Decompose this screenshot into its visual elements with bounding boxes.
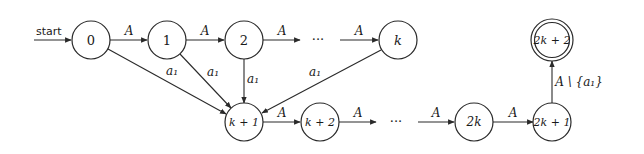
state-1: 1 [148, 21, 186, 59]
edge-dots-k: A [340, 24, 378, 40]
edge-k1-k2: A [263, 106, 300, 122]
edge-label: A [354, 24, 364, 38]
edge-2k1-2k2: A \ {a₁} [552, 61, 603, 103]
edge-dots-2k: A [418, 106, 454, 122]
ellipsis-top: ··· [312, 32, 324, 47]
edge-label: A [124, 24, 134, 38]
svg-text:2: 2 [240, 33, 248, 48]
svg-text:2k + 1: 2k + 1 [533, 116, 571, 129]
edge-label: a₁ [207, 65, 219, 79]
svg-text:0: 0 [87, 33, 95, 48]
edge-2-dots: A [263, 24, 300, 40]
svg-text:1: 1 [163, 33, 171, 48]
edge-label: A [431, 106, 441, 120]
edge-1-k1: a₁ [180, 54, 231, 108]
edge-label: a₁ [309, 65, 321, 79]
edge-label: A [277, 24, 287, 38]
state-k: k [379, 21, 417, 59]
edge-label: A [353, 106, 363, 120]
edge-label: A [508, 106, 518, 120]
state-2k: 2k [455, 103, 493, 141]
start-arrow: start [34, 25, 71, 40]
edge-label: A [277, 106, 287, 120]
svg-text:k + 2: k + 2 [305, 116, 335, 129]
state-2k-plus-2-accepting: 2k + 2 [531, 19, 573, 61]
edge-label: A [200, 24, 210, 38]
state-k-plus-1: k + 1 [225, 103, 263, 141]
edge-k2-dots: A [339, 106, 376, 122]
edge-1-2: A [186, 24, 224, 40]
edge-label: A \ {a₁} [554, 75, 603, 89]
svg-text:2k: 2k [466, 115, 482, 129]
state-k-plus-2: k + 2 [301, 103, 339, 141]
automaton-diagram: start A A A ··· A a₁ a₁ a₁ a₁ A A [0, 0, 644, 154]
edge-label: a₁ [166, 64, 178, 78]
svg-text:k: k [394, 33, 402, 48]
svg-text:k + 1: k + 1 [229, 116, 259, 129]
edge-2k-2k1: A [493, 106, 533, 122]
state-0: 0 [72, 21, 110, 59]
edge-label: a₁ [247, 72, 259, 86]
edge-2-k1: a₁ [244, 59, 259, 103]
state-2: 2 [225, 21, 263, 59]
start-label: start [36, 25, 62, 38]
svg-text:2k + 2: 2k + 2 [533, 34, 571, 47]
ellipsis-bottom: ··· [390, 114, 402, 129]
state-2k-plus-1: 2k + 1 [533, 103, 571, 141]
edge-0-1: A [110, 24, 147, 40]
